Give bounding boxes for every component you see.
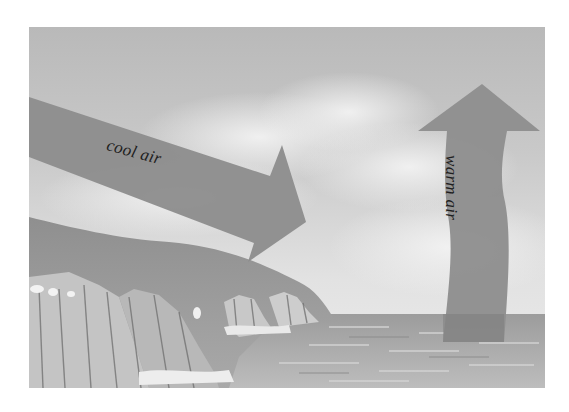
warm-air-arrow-base: [443, 314, 504, 342]
warm-air-label: warm air: [441, 155, 461, 220]
sea-breeze-illustration: cool air warm air: [29, 27, 545, 388]
scene-graphic: [29, 27, 545, 388]
